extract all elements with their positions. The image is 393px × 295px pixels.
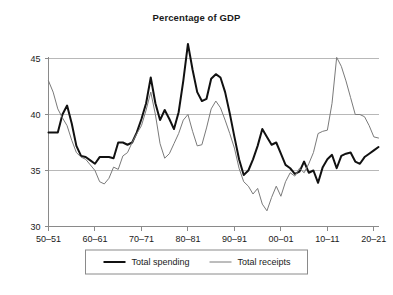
x-tick-label-1980: 80–81 xyxy=(175,234,200,244)
legend-label-total-receipts: Total receipts xyxy=(238,257,292,267)
y-tick-labels: 30354045 xyxy=(30,54,40,232)
y-tick-label-40: 40 xyxy=(30,110,40,120)
y-tick-label-35: 35 xyxy=(30,166,40,176)
legend-label-total-spending: Total spending xyxy=(132,257,190,267)
series-line-total-receipts xyxy=(49,57,379,210)
x-tick-label-1970: 70–71 xyxy=(129,234,154,244)
y-tick-label-45: 45 xyxy=(30,54,40,64)
x-tick-label-2020: 20–21 xyxy=(361,234,386,244)
x-tick-label-2010: 10–11 xyxy=(315,234,339,244)
x-tick-label-1990: 90–91 xyxy=(222,234,247,244)
x-tick-label-1950: 50–51 xyxy=(36,234,61,244)
y-axis xyxy=(45,57,49,227)
series-line-total-spending xyxy=(49,44,379,183)
x-tick-label-2000: 00–01 xyxy=(268,234,293,244)
chart-legend: Total spendingTotal receipts xyxy=(86,250,308,274)
y-tick-label-30: 30 xyxy=(30,222,40,232)
x-tick-label-1960: 60–61 xyxy=(82,234,107,244)
x-tick-labels: 50–5160–6170–7180–8190–9100–0110–1120–21 xyxy=(36,234,386,244)
chart-figure: Percentage of GDP 30354045 50–5160–6170–… xyxy=(0,0,393,295)
x-axis xyxy=(49,227,379,231)
data-series xyxy=(49,44,379,211)
line-chart-plot: 30354045 50–5160–6170–7180–8190–9100–011… xyxy=(0,0,393,295)
